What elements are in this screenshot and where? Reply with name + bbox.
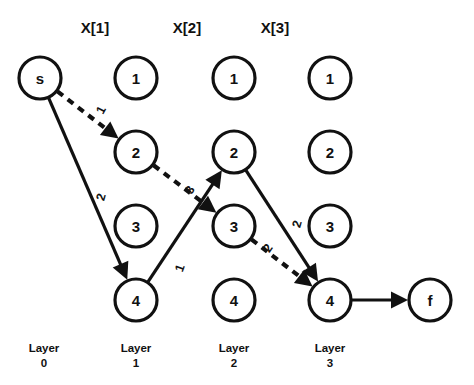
edge-weight-label: 2 <box>93 192 108 203</box>
column-headers-group: X[1]X[2]X[3] <box>81 19 289 36</box>
column-header-3: X[3] <box>261 19 289 36</box>
edge-weight-label: 2 <box>289 219 304 230</box>
layer-label-word: Layer <box>219 342 250 354</box>
node-c1n1[interactable]: 1 <box>115 57 157 99</box>
node-c2n2[interactable]: 2 <box>213 131 255 173</box>
node-label: 1 <box>230 70 238 87</box>
node-label: 3 <box>230 218 238 235</box>
node-c1n4[interactable]: 4 <box>115 279 157 321</box>
layer-label-index: 2 <box>231 357 237 369</box>
diagram-canvas: s123412341234f X[1]X[2]X[3] Layer0Layer1… <box>0 0 474 385</box>
edge-weights-group: 123122 <box>93 104 305 274</box>
layer-label-3: Layer3 <box>315 342 346 369</box>
edge-weight-label: 1 <box>93 104 109 117</box>
layer-label-word: Layer <box>121 342 152 354</box>
edge-c1n2-to-c2n3 <box>154 165 205 203</box>
node-c3n3[interactable]: 3 <box>309 205 351 247</box>
layer-label-word: Layer <box>315 342 346 354</box>
node-label: 3 <box>132 218 140 235</box>
layer-label-index: 1 <box>133 357 140 369</box>
node-c1n3[interactable]: 3 <box>115 205 157 247</box>
layer-label-word: Layer <box>29 342 60 354</box>
node-label: 1 <box>132 70 140 87</box>
arrowhead-icon <box>391 292 408 309</box>
arrowhead-icon <box>205 170 221 189</box>
edge-weight-label: 3 <box>182 183 198 196</box>
node-label: 4 <box>230 292 239 309</box>
nodes-group: s123412341234f <box>19 57 451 321</box>
node-label: 2 <box>132 144 140 161</box>
node-label: 4 <box>132 292 141 309</box>
node-c2n3[interactable]: 3 <box>213 205 255 247</box>
layer-label-index: 0 <box>41 357 47 369</box>
column-header-2: X[2] <box>173 19 201 36</box>
node-label: 2 <box>326 144 334 161</box>
node-label: s <box>36 70 44 87</box>
node-s[interactable]: s <box>19 57 61 99</box>
column-header-1: X[1] <box>81 19 109 36</box>
layer-label-2: Layer2 <box>219 342 250 369</box>
layer-label-0: Layer0 <box>29 342 60 369</box>
layer-labels-group: Layer0Layer1Layer2Layer3 <box>29 342 346 369</box>
node-label: 3 <box>326 218 334 235</box>
edge-weight-label: 2 <box>260 241 275 255</box>
node-c2n1[interactable]: 1 <box>213 57 255 99</box>
node-c3n1[interactable]: 1 <box>309 57 351 99</box>
node-c3n4[interactable]: 4 <box>309 279 351 321</box>
trellis-diagram: s123412341234f X[1]X[2]X[3] Layer0Layer1… <box>0 0 474 385</box>
edge-weight-label: 1 <box>172 262 188 273</box>
node-label: 2 <box>230 144 238 161</box>
node-c2n4[interactable]: 4 <box>213 279 255 321</box>
layer-label-index: 3 <box>327 357 333 369</box>
node-c1n2[interactable]: 2 <box>115 131 157 173</box>
node-c3n2[interactable]: 2 <box>309 131 351 173</box>
node-label: 4 <box>326 292 335 309</box>
layer-label-1: Layer1 <box>121 342 152 369</box>
node-label: 1 <box>326 70 334 87</box>
node-f[interactable]: f <box>409 279 451 321</box>
